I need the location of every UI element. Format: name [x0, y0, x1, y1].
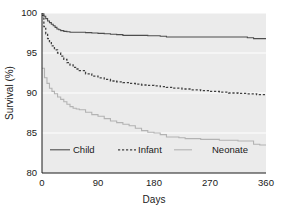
legend-label-infant: Infant: [138, 144, 162, 155]
x-tick-label-360: 360: [258, 177, 274, 188]
x-tick-label-180: 180: [146, 177, 162, 188]
y-axis-title: Survival (%): [4, 66, 15, 120]
y-tick-label-100: 100: [21, 7, 37, 18]
survival-chart-figure: 80859095100 090180270360 Days Survival (…: [0, 0, 282, 212]
x-tick-label-270: 270: [202, 177, 218, 188]
x-axis-title: Days: [143, 194, 166, 205]
chart-canvas: 80859095100 090180270360 Days Survival (…: [0, 0, 282, 212]
x-tick-label-90: 90: [93, 177, 104, 188]
y-tick-label-85: 85: [26, 127, 37, 138]
x-tick-label-0: 0: [39, 177, 44, 188]
legend-label-child: Child: [73, 144, 95, 155]
chart-legend: ChildInfantNeonate: [50, 144, 248, 155]
y-tick-label-90: 90: [26, 87, 37, 98]
legend-label-neonate: Neonate: [212, 144, 248, 155]
y-tick-label-95: 95: [26, 47, 37, 58]
y-tick-label-80: 80: [26, 167, 37, 178]
